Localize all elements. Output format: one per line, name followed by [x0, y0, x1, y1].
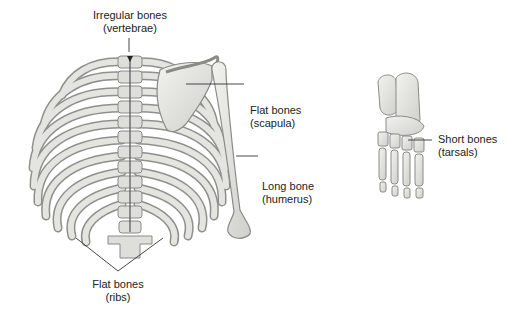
label-irregular-bones: Irregular bones (vertebrae) — [90, 9, 170, 35]
label-flat-bones-scapula: Flat bones (scapula) — [250, 104, 301, 130]
foot-bones — [378, 73, 424, 198]
label-short-bones-tarsals: Short bones (tarsals) — [438, 133, 497, 159]
label-long-bone-humerus: Long bone (humerus) — [262, 180, 314, 206]
label-flat-bones-ribs: Flat bones (ribs) — [80, 278, 156, 304]
